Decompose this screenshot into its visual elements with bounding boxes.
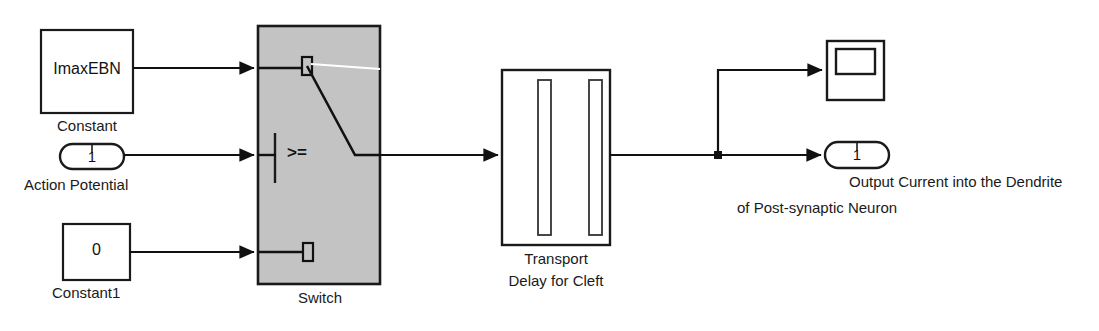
output-port-caption-line1: Output Current into the Dendrite — [849, 172, 1062, 191]
constant1-block-value: 0 — [63, 241, 130, 259]
switch-input3-port — [303, 243, 313, 261]
constant-block-caption: Constant — [27, 116, 147, 135]
constant1-block-caption: Constant1 — [52, 283, 120, 302]
transport-delay-caption-line2: Delay for Cleft — [496, 271, 616, 290]
block-diagram-canvas: ImaxEBN Constant 1 Action Potential 0 Co… — [0, 0, 1099, 331]
output-port-caption-line2: of Post-synaptic Neuron — [737, 198, 897, 217]
transport-delay-icon-bar-right — [589, 80, 602, 235]
scope-screen-icon — [836, 49, 875, 74]
action-potential-caption: Action Potential — [24, 175, 128, 194]
constant-block-value: ImaxEBN — [41, 60, 133, 78]
switch-block-caption: Switch — [259, 288, 381, 307]
signal-branch-to-scope[interactable] — [718, 70, 822, 155]
signal-branch-junction-dot — [714, 151, 722, 159]
transport-delay-caption-line1: Transport — [496, 249, 616, 268]
output-port-number: 1 — [825, 146, 889, 163]
switch-criteria-label: >= — [287, 143, 307, 163]
action-potential-port-number: 1 — [60, 148, 124, 165]
transport-delay-icon-bar-left — [538, 80, 551, 235]
